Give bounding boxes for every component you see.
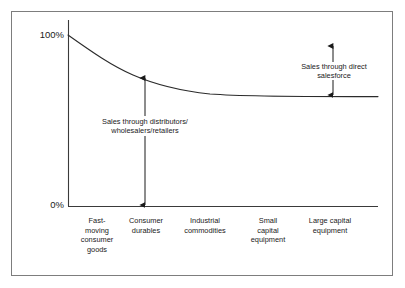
- annotation-direct-salesforce: Sales through direct salesforce: [288, 62, 380, 80]
- category-label-industrial-commodities: Industrial commodities: [173, 216, 237, 235]
- plot-area: [0, 0, 405, 288]
- category-label-large-capital-equipment: Large capital equipment: [295, 216, 365, 235]
- y-axis-label-0: 0%: [16, 200, 64, 210]
- y-axis-label-100: 100%: [16, 30, 64, 40]
- category-label-consumer-durables: Consumer durables: [117, 216, 175, 235]
- annotation-distributors: Sales through distributors/ wholesalers/…: [85, 117, 205, 135]
- chart-figure: 100% 0% Sales through distributors/ whol…: [0, 0, 405, 288]
- category-label-small-capital-equipment: Small capital equipment: [241, 216, 295, 245]
